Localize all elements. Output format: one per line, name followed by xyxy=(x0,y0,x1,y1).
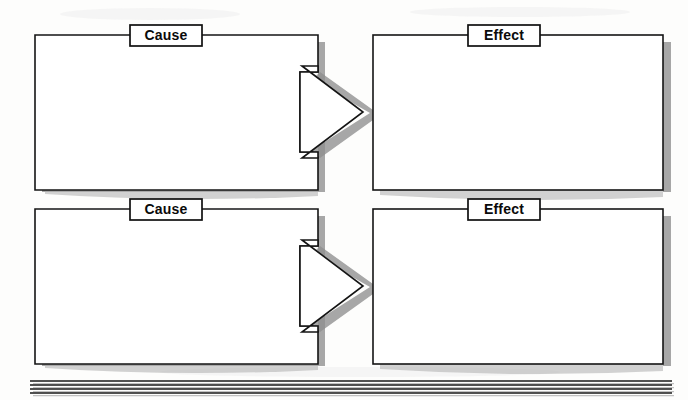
effect-box-2[interactable] xyxy=(373,209,663,364)
effect-label-1: Effect xyxy=(484,27,524,43)
effect-edge-shadow-1 xyxy=(663,42,671,192)
worksheet-canvas: Cause Effect xyxy=(0,0,688,400)
effect-label-group-2[interactable]: Effect xyxy=(468,199,540,220)
row-2: Cause Effect xyxy=(35,199,671,374)
cause-label-group-2[interactable]: Cause xyxy=(130,199,202,220)
cause-effect-diagram: Cause Effect xyxy=(0,0,688,400)
cause-box-2[interactable] xyxy=(35,209,318,364)
effect-edge-shadow-2 xyxy=(663,216,671,366)
effect-label-2: Effect xyxy=(484,201,524,217)
cause-label-1: Cause xyxy=(144,27,187,43)
effect-box-1[interactable] xyxy=(373,35,663,190)
cause-label-2: Cause xyxy=(144,201,187,217)
cause-label-group-1[interactable]: Cause xyxy=(130,25,202,46)
row-1: Cause Effect xyxy=(35,25,671,200)
effect-label-group-1[interactable]: Effect xyxy=(468,25,540,46)
cause-box-1[interactable] xyxy=(35,35,318,190)
writing-rules xyxy=(30,381,674,396)
